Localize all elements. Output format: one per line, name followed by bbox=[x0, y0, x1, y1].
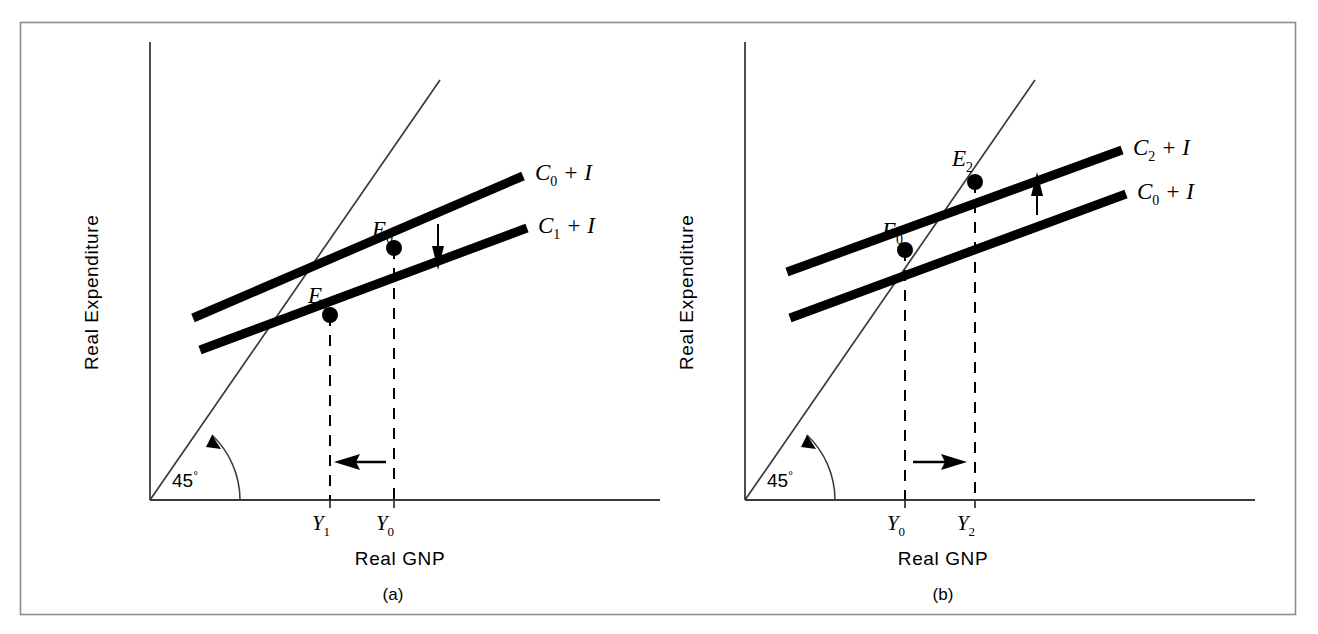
panel-b-upper-curve-label: C2 + I bbox=[1133, 135, 1191, 164]
panel-b-x-axis-title: Real GNP bbox=[898, 548, 988, 569]
panel-b-lower-curve-label: C0 + I bbox=[1137, 179, 1195, 208]
panel-a-y-axis-title: Real Expenditure bbox=[81, 215, 102, 370]
panel-a-x-axis-title: Real GNP bbox=[355, 548, 445, 569]
panel-b-y-axis-title: Real Expenditure bbox=[676, 215, 697, 370]
economics-figure: 45° C0 + I C1 + I E0 E1 bbox=[0, 0, 1318, 634]
figure-border bbox=[21, 23, 1296, 615]
panel-a-lower-curve-label: C1 + I bbox=[538, 213, 596, 242]
panel-b-caption: (b) bbox=[933, 585, 954, 604]
figure-root: 45° C0 + I C1 + I E0 E1 bbox=[0, 0, 1318, 634]
panel-a-caption: (a) bbox=[383, 585, 404, 604]
panel-a-upper-curve-label: C0 + I bbox=[535, 160, 593, 189]
